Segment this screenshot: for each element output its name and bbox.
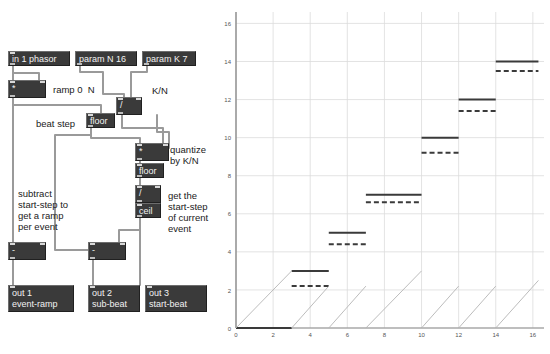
inlet-nub[interactable]	[10, 52, 15, 54]
outlet-nub[interactable]	[137, 215, 142, 217]
inlet-nub[interactable]	[40, 243, 45, 245]
outlet-nub[interactable]	[88, 125, 93, 127]
x-axis-tick-label: 0	[234, 332, 238, 338]
patch-wire	[91, 128, 140, 143]
patch-wire	[131, 66, 147, 97]
inlet-nub[interactable]	[163, 144, 168, 146]
patch-caption-k-over-n: K/N	[152, 85, 168, 96]
patch-wire	[13, 98, 101, 113]
x-axis-tick-label: 16	[530, 332, 537, 338]
x-axis-tick-label: 6	[346, 332, 350, 338]
outlet-nub[interactable]	[118, 112, 123, 114]
inlet-nub[interactable]	[136, 98, 141, 100]
inlet-nub[interactable]	[155, 186, 160, 188]
y-axis-tick-label: 12	[224, 97, 231, 103]
patch-node-out-2[interactable]: out 2 sub-beat	[88, 285, 140, 312]
x-axis-tick-label: 14	[492, 332, 499, 338]
patch-caption-beat-step: beat step	[36, 118, 75, 129]
y-axis-tick-label: 6	[228, 211, 232, 217]
x-axis-tick-label: 12	[455, 332, 462, 338]
inlet-nub[interactable]	[10, 243, 15, 245]
step-ramp-chart: 02468101214160246810121416	[222, 0, 550, 354]
event-ramp-segment	[366, 271, 422, 328]
y-axis-tick-label: 0	[228, 326, 232, 332]
y-axis-tick-label: 2	[228, 288, 232, 294]
outlet-nub[interactable]	[90, 257, 95, 259]
patch-wire	[119, 218, 140, 242]
x-axis-tick-label: 4	[309, 332, 313, 338]
patch-caption-quantize: quantize by K/N	[170, 144, 206, 166]
chart-canvas: 02468101214160246810121416	[222, 0, 550, 354]
event-ramp-segment	[496, 280, 539, 328]
inlet-nub[interactable]	[10, 286, 15, 288]
outlet-nub[interactable]	[10, 95, 15, 97]
outlet-nub[interactable]	[77, 63, 82, 65]
inlet-nub[interactable]	[118, 98, 123, 100]
outlet-nub[interactable]	[10, 63, 15, 65]
patch-node-out-3[interactable]: out 3 start-beat	[145, 285, 207, 312]
inlet-nub[interactable]	[137, 204, 142, 206]
y-axis-tick-label: 16	[224, 21, 231, 27]
event-ramp-segment	[459, 286, 496, 328]
inlet-nub[interactable]	[137, 164, 142, 166]
patch-caption-subtract: subtract start-step to get a ramp per ev…	[18, 188, 68, 232]
patch-wire	[13, 66, 39, 80]
x-axis-tick-label: 8	[383, 332, 387, 338]
outlet-nub[interactable]	[10, 257, 15, 259]
inlet-nub[interactable]	[137, 186, 142, 188]
inlet-nub[interactable]	[90, 243, 95, 245]
outlet-nub[interactable]	[144, 63, 149, 65]
outlet-nub[interactable]	[137, 200, 142, 202]
y-axis-tick-label: 10	[224, 135, 231, 141]
patch-caption-ramp: ramp 0 N	[53, 84, 95, 95]
inlet-nub[interactable]	[120, 243, 125, 245]
event-ramp-segment	[236, 271, 292, 328]
patch-node-out-1[interactable]: out 1 event-ramp	[8, 285, 74, 312]
inlet-nub[interactable]	[88, 114, 93, 116]
y-axis-tick-label: 8	[228, 173, 232, 179]
inlet-nub[interactable]	[147, 286, 152, 288]
patch-node-param-n-16[interactable]: param N 16	[75, 51, 137, 66]
y-axis-tick-label: 4	[228, 249, 232, 255]
inlet-nub[interactable]	[10, 81, 15, 83]
inlet-nub[interactable]	[40, 81, 45, 83]
x-axis-tick-label: 10	[418, 332, 425, 338]
outlet-nub[interactable]	[137, 158, 142, 160]
patch-caption-start-step: get the start-step of current event	[168, 190, 208, 234]
x-axis-tick-label: 2	[271, 332, 275, 338]
patch-node-param-k-7[interactable]: param K 7	[142, 51, 196, 66]
patch-node-in-1-phasor[interactable]: in 1 phasor	[8, 51, 70, 66]
patch-diagram: in 1 phasorparam N 16param K 7*/floor*fl…	[0, 0, 222, 354]
y-axis-tick-label: 14	[224, 59, 231, 65]
outlet-nub[interactable]	[137, 175, 142, 177]
event-ramp-segment	[422, 286, 459, 328]
inlet-nub[interactable]	[90, 286, 95, 288]
inlet-nub[interactable]	[137, 144, 142, 146]
